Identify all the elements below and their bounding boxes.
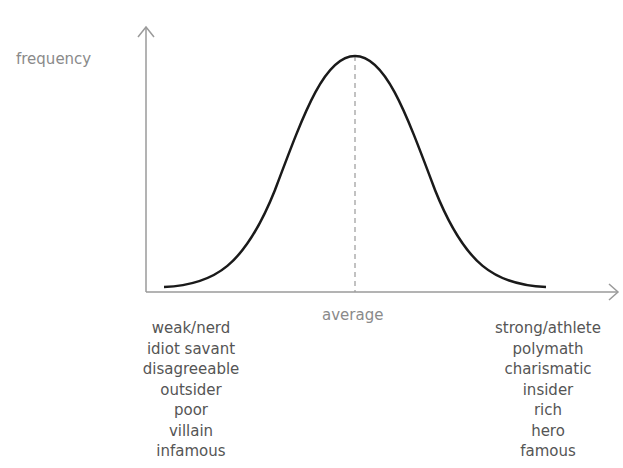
x-axis [146,284,618,300]
right-label: strong/athlete [478,318,618,339]
left-labels: weak/nerd idiot savant disagreeable outs… [126,318,256,462]
right-label: insider [478,380,618,401]
left-label: poor [126,400,256,421]
right-labels: strong/athlete polymath charismatic insi… [478,318,618,462]
left-label: disagreeable [126,359,256,380]
left-label: infamous [126,441,256,462]
bell-curve [164,56,546,287]
average-label: average [322,306,383,324]
y-axis [138,27,154,292]
left-label: outsider [126,380,256,401]
left-label: villain [126,421,256,442]
right-label: famous [478,441,618,462]
left-label: weak/nerd [126,318,256,339]
y-axis-label: frequency [16,50,91,68]
right-label: hero [478,421,618,442]
left-label: idiot savant [126,339,256,360]
right-label: rich [478,400,618,421]
right-label: polymath [478,339,618,360]
right-label: charismatic [478,359,618,380]
